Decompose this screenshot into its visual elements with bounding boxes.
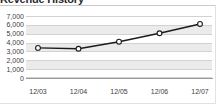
chart-widget: Revenue History 7,0006,0005,0004,0003,00… bbox=[0, 0, 216, 104]
y-tick-label: 6,000 bbox=[0, 21, 24, 28]
x-tick-label: 12/04 bbox=[70, 88, 88, 96]
data-point bbox=[76, 46, 81, 51]
y-tick-label: 5,000 bbox=[0, 30, 24, 37]
y-tick-label: 0 bbox=[0, 75, 24, 82]
y-tick-label: 1,000 bbox=[0, 66, 24, 73]
data-point bbox=[157, 31, 162, 36]
title-divider bbox=[0, 5, 216, 6]
y-tick-label: 2,000 bbox=[0, 57, 24, 64]
data-point bbox=[117, 39, 122, 44]
x-tick-label: 12/03 bbox=[29, 88, 47, 96]
x-tick-label: 12/06 bbox=[151, 88, 169, 96]
series-markers-revenue bbox=[36, 22, 203, 52]
x-tick-label: 12/07 bbox=[191, 88, 209, 96]
series-revenue bbox=[26, 16, 212, 78]
data-point bbox=[198, 22, 203, 27]
series-line-revenue bbox=[38, 24, 200, 49]
frame-right-edge bbox=[215, 5, 216, 104]
x-tick-label: 12/05 bbox=[110, 88, 128, 96]
x-axis-line bbox=[26, 78, 213, 79]
frame-bottom-edge bbox=[0, 103, 216, 104]
plot-area bbox=[26, 16, 212, 78]
y-tick-label: 3,000 bbox=[0, 48, 24, 55]
y-tick-label: 4,000 bbox=[0, 39, 24, 46]
y-tick-label: 7,000 bbox=[0, 13, 24, 20]
x-axis-labels: 12/0312/0412/0512/0612/07 bbox=[0, 88, 216, 100]
data-point bbox=[36, 45, 41, 50]
